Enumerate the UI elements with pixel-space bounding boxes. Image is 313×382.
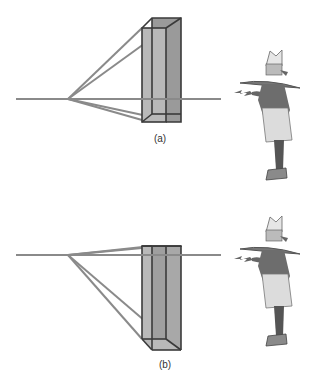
panel-b bbox=[16, 216, 300, 350]
panel-a bbox=[16, 18, 300, 180]
box-a bbox=[142, 18, 181, 122]
box-b bbox=[142, 246, 181, 350]
wizard-figure-a bbox=[234, 50, 300, 180]
panel-a-label: (a) bbox=[154, 133, 166, 144]
perspective-diagram bbox=[0, 0, 313, 382]
panel-b-label: (b) bbox=[159, 359, 171, 370]
wizard-figure-b bbox=[234, 216, 300, 346]
